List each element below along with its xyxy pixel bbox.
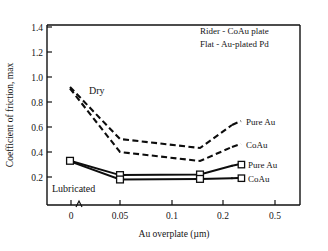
x-tick-label-0: 0: [69, 211, 74, 221]
y-tick-label-1.0: 1.0: [31, 73, 43, 83]
friction-line-chart: 0.2 0.4 0.6 0.8 1.0 1.2 1.4 0 0.05 0.1 0…: [0, 0, 328, 251]
y-tick-label-0.8: 0.8: [31, 98, 43, 108]
y-tick-label-1.2: 1.2: [31, 48, 43, 58]
axis-break-marker: [76, 201, 82, 207]
series-dry-coau-line: [70, 89, 232, 162]
series-lub-coau-line: [70, 161, 232, 179]
x-axis-ticks: [71, 200, 275, 205]
data-point-marker: [117, 176, 124, 183]
series-label-dry-pure-au: Pure Au: [246, 117, 276, 127]
data-point-marker: [67, 157, 74, 164]
figure-container: 0.2 0.4 0.6 0.8 1.0 1.2 1.4 0 0.05 0.1 0…: [0, 0, 328, 251]
leader-dry-pure-au: [232, 121, 241, 125]
annotation-rider: Rider - CoAu plate: [200, 26, 269, 36]
y-axis-ticks: [47, 27, 52, 177]
y-tick-label-1.4: 1.4: [31, 23, 43, 33]
x-tick-label-0.2: 0.2: [217, 211, 229, 221]
group-label-dry: Dry: [89, 85, 105, 96]
x-tick-label-0.1: 0.1: [166, 211, 178, 221]
series-label-lub-coau: CoAu: [248, 174, 270, 184]
condition-annotation-block: Rider - CoAu plate Flat - Au-plated Pd: [200, 26, 269, 49]
series-end-label-group: Pure Au CoAu Pure Au CoAu: [246, 117, 278, 184]
group-label-lubricated: Lubricated: [52, 183, 95, 194]
series-end-leaders: [232, 121, 245, 181]
y-tick-label-0.2: 0.2: [31, 173, 43, 183]
data-point-marker: [238, 161, 244, 167]
y-tick-label-0.6: 0.6: [31, 123, 43, 133]
data-point-marker: [238, 175, 244, 181]
leader-lub-pure-au: [232, 165, 238, 166]
x-tick-label-0.5: 0.5: [269, 211, 281, 221]
x-axis-tick-labels: 0 0.05 0.1 0.2 0.5: [69, 211, 282, 221]
series-label-dry-coau: CoAu: [246, 140, 268, 150]
data-point-marker: [197, 176, 204, 183]
axis-break-zigzag: [76, 201, 82, 207]
x-axis-title: Au overplate (µm): [139, 229, 210, 240]
x-tick-label-0.05: 0.05: [112, 211, 129, 221]
series-dry-pure-au-line: [70, 87, 232, 148]
leader-dry-coau: [232, 144, 241, 147]
y-axis-tick-labels: 0.2 0.4 0.6 0.8 1.0 1.2 1.4: [31, 23, 43, 183]
annotation-flat: Flat - Au-plated Pd: [200, 39, 269, 49]
y-axis-title: Coefficient of friction, max: [5, 63, 15, 168]
y-tick-label-0.4: 0.4: [31, 148, 43, 158]
series-label-lub-pure-au: Pure Au: [248, 160, 278, 170]
series-lub-pure-au-line: [70, 161, 232, 175]
